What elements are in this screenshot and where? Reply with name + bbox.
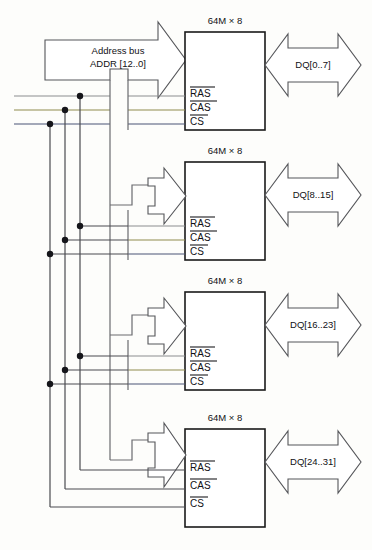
junction-dot xyxy=(47,251,53,257)
address-bus-label-line1: Address bus xyxy=(92,45,145,56)
chip-2-signal-ras: RAS xyxy=(190,218,211,229)
chip-4-signal-cs: CS xyxy=(190,498,204,509)
chip-1-data-label: DQ[0..7] xyxy=(295,59,330,70)
junction-dot xyxy=(62,367,68,373)
junction-dot xyxy=(47,121,53,127)
chip-4-title: 64M × 8 xyxy=(208,412,243,423)
chip-4-data-label: DQ[24..31] xyxy=(290,456,336,467)
chip-2: 64M × 8 RAS CAS CS DQ[8..15] xyxy=(128,145,361,260)
address-bus-trunk xyxy=(110,80,148,460)
junction-dot xyxy=(77,353,83,359)
chip-2-data-label: DQ[8..15] xyxy=(293,189,334,200)
chip-3-signal-cs: CS xyxy=(190,376,204,387)
chip-3-data-label: DQ[16..23] xyxy=(290,319,336,330)
junction-dot xyxy=(62,237,68,243)
chip-4-body xyxy=(185,429,265,527)
diagram-canvas: Address bus ADDR [12..0] 64M × 8 RAS xyxy=(0,0,372,550)
chip-3-title: 64M × 8 xyxy=(208,275,243,286)
junction-dot xyxy=(77,93,83,99)
chip-4-signal-cas: CAS xyxy=(190,480,211,491)
chip-2-signal-cs: CS xyxy=(190,246,204,257)
chip-3-signal-cas: CAS xyxy=(190,362,211,373)
memory-bank-diagram: Address bus ADDR [12..0] 64M × 8 RAS xyxy=(0,0,372,550)
chip-4-signal-ras: RAS xyxy=(190,462,211,473)
chip-3-signal-ras: RAS xyxy=(190,348,211,359)
chip-1-signal-ras: RAS xyxy=(190,88,211,99)
chip-1-signal-cas: CAS xyxy=(190,102,211,113)
chip-2-signal-cas: CAS xyxy=(190,232,211,243)
chip-3: 64M × 8 RAS CAS CS DQ[16..23] xyxy=(128,275,361,390)
junction-dot xyxy=(77,223,83,229)
junction-dot xyxy=(62,107,68,113)
junction-dot xyxy=(47,381,53,387)
chip-1-title: 64M × 8 xyxy=(208,15,243,26)
chip-1-signal-cs: CS xyxy=(190,116,204,127)
address-bus-label-line2: ADDR [12..0] xyxy=(90,58,146,69)
chip-2-title: 64M × 8 xyxy=(208,145,243,156)
